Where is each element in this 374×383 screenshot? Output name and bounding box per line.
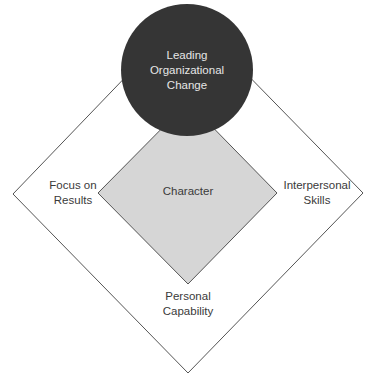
right-label-line-1: Interpersonal (274, 178, 360, 193)
bottom-label-line-2: Capability (148, 304, 228, 319)
center-label-line-3: Change (127, 78, 247, 93)
right-label-line-2: Skills (274, 193, 360, 208)
bottom-label-line-1: Personal (148, 289, 228, 304)
center-label-line-1: Leading (127, 48, 247, 63)
left-label-line-2: Results (38, 193, 108, 208)
center-label-line-2: Organizational (127, 63, 247, 78)
left-label-line-1: Focus on (38, 178, 108, 193)
bottom-label: Personal Capability (148, 289, 228, 319)
right-label: Interpersonal Skills (274, 178, 360, 208)
left-label: Focus on Results (38, 178, 108, 208)
inner-diamond-label: Character (138, 184, 238, 199)
center-circle-label: Leading Organizational Change (127, 48, 247, 93)
leadership-diagram: Leading Organizational Change Character … (0, 0, 374, 383)
